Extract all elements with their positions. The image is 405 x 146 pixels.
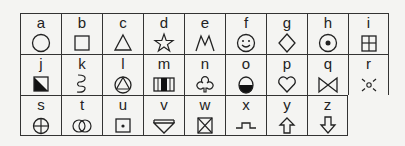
m-shape-icon <box>194 31 216 53</box>
cell-letter: d <box>144 15 184 31</box>
cell-v: v <box>143 95 184 136</box>
cell-t: t <box>61 95 102 136</box>
interlocking-rings-icon <box>71 113 93 135</box>
cell-letter: i <box>349 15 388 31</box>
crosshair-circle-icon <box>30 113 52 135</box>
smiley-icon <box>235 31 257 53</box>
cell-letter: l <box>103 56 143 72</box>
cell-j: j <box>20 54 61 95</box>
diamond-icon <box>276 31 298 53</box>
heart-icon <box>276 72 298 94</box>
circle-dot-icon <box>317 31 339 53</box>
cell-letter: s <box>21 97 61 113</box>
grid-row-3: s t u v w x y z <box>20 95 389 136</box>
cell-letter: y <box>267 97 307 113</box>
bowtie-icon <box>317 72 339 94</box>
cell-e: e <box>184 13 225 54</box>
cell-u: u <box>102 95 143 136</box>
cell-letter: z <box>308 97 347 113</box>
cell-p: p <box>266 54 307 95</box>
cell-i: i <box>348 13 389 54</box>
cell-s: s <box>20 95 61 136</box>
cell-o: o <box>225 54 266 95</box>
cell-letter: q <box>308 56 348 72</box>
cell-w: w <box>184 95 225 136</box>
grid-row-2: j k l m n o p q <box>20 54 389 95</box>
cell-n: n <box>184 54 225 95</box>
cell-a: a <box>20 13 61 54</box>
cell-letter: t <box>62 97 102 113</box>
squiggle-icon <box>71 72 93 94</box>
arrow-up-icon <box>276 113 298 135</box>
cell-x: x <box>225 95 266 136</box>
square-dot-icon <box>112 113 134 135</box>
cell-f: f <box>225 13 266 54</box>
window-grid-icon <box>358 31 380 53</box>
cell-letter: j <box>21 56 61 72</box>
cell-q: q <box>307 54 348 95</box>
club-outline-icon <box>194 72 216 94</box>
crossed-box-icon <box>194 113 216 135</box>
cell-letter: w <box>185 97 225 113</box>
cell-letter: h <box>308 15 348 31</box>
arrow-down-icon <box>317 113 339 135</box>
cell-letter: r <box>349 56 388 72</box>
cell-letter: f <box>226 15 266 31</box>
cell-letter: c <box>103 15 143 31</box>
cell-r: r <box>348 54 389 95</box>
cell-h: h <box>307 13 348 54</box>
triangle-in-circle-icon <box>112 72 134 94</box>
triangle-icon <box>112 31 134 53</box>
cell-b: b <box>61 13 102 54</box>
cell-letter: a <box>21 15 61 31</box>
half-filled-egg-icon <box>235 72 257 94</box>
square-icon <box>71 31 93 53</box>
star-icon <box>153 31 175 53</box>
cell-l: l <box>102 54 143 95</box>
grid-row-1: a b c d e f g h <box>20 13 389 54</box>
half-filled-square-icon <box>30 72 52 94</box>
cell-letter: v <box>144 97 184 113</box>
inverted-triangle-bar-icon <box>153 113 175 135</box>
circle-icon <box>30 31 52 53</box>
cell-letter: k <box>62 56 102 72</box>
cell-y: y <box>266 95 307 136</box>
cell-c: c <box>102 13 143 54</box>
cell-letter: x <box>226 97 266 113</box>
symbol-grid: a b c d e f g h <box>20 13 389 136</box>
cell-m: m <box>143 54 184 95</box>
cell-letter: u <box>103 97 143 113</box>
step-line-icon <box>235 113 257 135</box>
striped-rectangle-icon <box>153 72 175 94</box>
cell-letter: m <box>144 56 184 72</box>
cell-letter: b <box>62 15 102 31</box>
cell-d: d <box>143 13 184 54</box>
cell-k: k <box>61 54 102 95</box>
sun-rays-icon <box>358 72 380 94</box>
cell-letter: g <box>267 15 307 31</box>
cell-letter: o <box>226 56 266 72</box>
cell-letter: e <box>185 15 225 31</box>
cell-letter: n <box>185 56 225 72</box>
cell-letter: p <box>267 56 307 72</box>
cell-g: g <box>266 13 307 54</box>
cell-z: z <box>307 95 348 136</box>
